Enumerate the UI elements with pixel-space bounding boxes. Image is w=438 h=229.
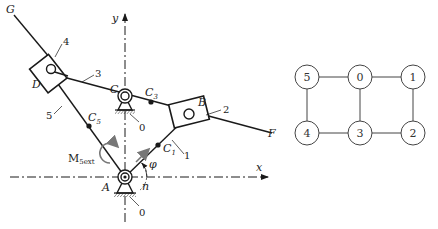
structure-graph: 5 0 1 4 3 2: [295, 65, 425, 145]
point-C5: [86, 123, 91, 128]
svg-text:2: 2: [410, 127, 417, 140]
graph-node-5: 5: [295, 65, 319, 89]
point-B-label: B: [197, 96, 206, 109]
point-D-label: D: [31, 78, 41, 91]
point-G-label: G: [6, 3, 15, 16]
link-2-number: 2: [223, 104, 229, 115]
point-C3-label: C3: [145, 86, 158, 101]
mechanism-diagram: x y G F D B C A C3: [0, 0, 438, 229]
svg-text:4: 4: [304, 127, 311, 140]
graph-node-4: 4: [295, 121, 319, 145]
graph-node-1: 1: [401, 65, 425, 89]
point-C5-label: C5: [88, 111, 101, 126]
link-4-number: 4: [63, 36, 69, 47]
angle-phi-label: φ: [149, 158, 157, 171]
point-A-label: A: [101, 181, 110, 194]
x-axis-label: x: [256, 161, 263, 174]
link-1-number: 1: [184, 150, 190, 161]
y-axis-label: y: [111, 12, 119, 25]
link-3-number: 3: [95, 68, 101, 79]
pivot-A: [114, 170, 136, 197]
svg-text:1: 1: [410, 71, 417, 84]
angle-n-label: n: [142, 180, 149, 193]
link-5-number: 5: [46, 110, 52, 121]
link-0-upper-number: 0: [139, 122, 145, 133]
svg-text:3: 3: [357, 127, 364, 140]
point-F-label: F: [267, 127, 276, 140]
graph-node-0: 0: [348, 65, 372, 89]
point-C-label: C: [110, 83, 119, 96]
link-3-line: [52, 74, 272, 133]
point-C1-label: C1: [163, 142, 176, 157]
graph-node-2: 2: [401, 121, 425, 145]
point-C1: [155, 142, 160, 147]
svg-text:0: 0: [357, 71, 364, 84]
graph-node-3: 3: [348, 121, 372, 145]
moment-label: M5ext: [68, 152, 95, 166]
link-0-lower-number: 0: [139, 207, 145, 218]
svg-text:5: 5: [304, 71, 311, 84]
